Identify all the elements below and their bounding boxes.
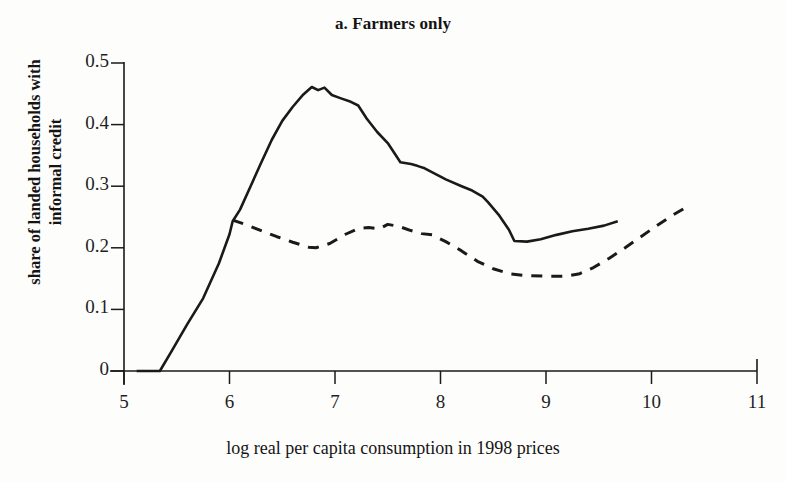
y-tick-label-1: 0.1 — [53, 296, 109, 318]
y-tick-label-0: 0 — [53, 358, 109, 380]
x-axis-title: log real per capita consumption in 1998 … — [0, 438, 786, 459]
chart-figure: a. Farmers only share of landed househol… — [0, 0, 786, 482]
data-series — [137, 87, 689, 371]
x-tick-label-6: 11 — [737, 391, 777, 413]
x-tick-label-3: 8 — [421, 391, 461, 413]
y-tick-label-4: 0.4 — [53, 112, 109, 134]
series-dashed — [233, 206, 689, 276]
x-tick-label-1: 6 — [210, 391, 250, 413]
x-tick-label-2: 7 — [315, 391, 355, 413]
series-solid — [137, 87, 618, 371]
y-tick-label-3: 0.3 — [53, 173, 109, 195]
x-tick-label-4: 9 — [526, 391, 566, 413]
x-tick-label-0: 5 — [104, 391, 144, 413]
y-tick-label-2: 0.2 — [53, 235, 109, 257]
x-tick-label-5: 10 — [632, 391, 672, 413]
y-tick-label-5: 0.5 — [53, 50, 109, 72]
